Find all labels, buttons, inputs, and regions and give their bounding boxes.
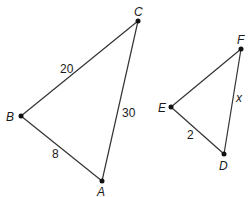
vertex-a-point	[100, 179, 105, 184]
side-ab-length: 8	[52, 147, 59, 161]
vertex-e-label: E	[158, 101, 167, 115]
triangle-abc: C B A 20 30 8	[6, 5, 143, 197]
vertex-a-label: A	[96, 185, 105, 197]
side-df-length: x	[235, 91, 243, 105]
vertex-c-label: C	[134, 5, 143, 19]
vertex-d-point	[222, 152, 227, 157]
vertex-d-label: D	[219, 159, 228, 173]
vertex-e-point	[169, 105, 174, 110]
side-bc-length: 20	[60, 62, 74, 76]
side-de	[171, 107, 224, 154]
vertex-f-label: F	[237, 33, 245, 47]
side-bc	[21, 21, 138, 116]
similar-triangles-diagram: C B A 20 30 8 F E D x 2	[0, 0, 251, 197]
side-ac	[102, 21, 138, 181]
side-ab	[21, 116, 102, 181]
side-ef	[171, 49, 241, 107]
triangle-def: F E D x 2	[158, 33, 245, 173]
side-de-length: 2	[187, 128, 194, 142]
vertex-f-point	[239, 47, 244, 52]
vertex-b-label: B	[6, 110, 14, 124]
side-ac-length: 30	[122, 106, 136, 120]
vertex-b-point	[19, 114, 24, 119]
vertex-c-point	[136, 19, 141, 24]
